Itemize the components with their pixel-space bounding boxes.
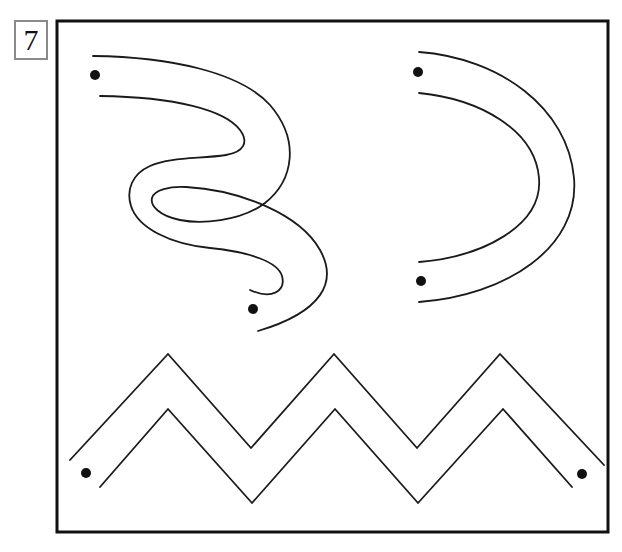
c-arc-start-dot-2 [416, 276, 426, 286]
s-curve-start-dot-1 [90, 70, 100, 80]
worksheet-page: 7 [0, 0, 622, 552]
zigzag-start-dot-2 [577, 469, 587, 479]
zigzag-start-dot-1 [81, 468, 91, 478]
tracing-canvas [0, 0, 622, 552]
s-curve-start-dot-2 [248, 304, 258, 314]
c-arc-start-dot-1 [413, 67, 423, 77]
